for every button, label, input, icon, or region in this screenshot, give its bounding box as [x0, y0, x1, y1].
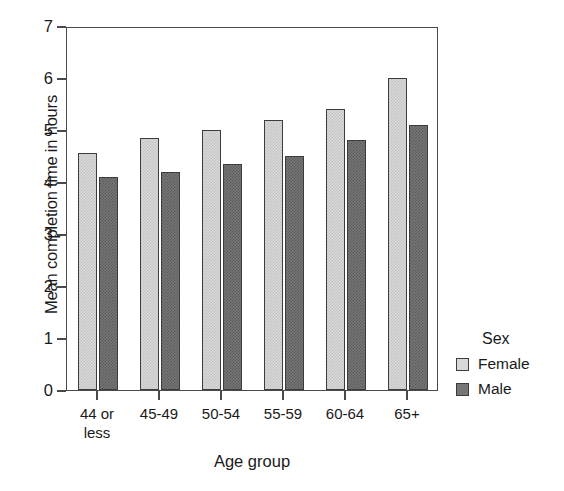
y-tick-label: 2 [44, 276, 53, 296]
x-tick-mark-0 [96, 391, 98, 400]
legend-title: Sex [482, 330, 562, 348]
y-tick-mark [57, 26, 66, 28]
bar-female-0 [78, 153, 97, 390]
bar-chart-figure: Mean completion time in hours 01234567 4… [0, 0, 564, 491]
y-tick-label: 6 [44, 68, 53, 88]
x-tick-mark-5 [406, 391, 408, 400]
y-tick-mark [57, 130, 66, 132]
y-tick-mark [57, 234, 66, 236]
y-tick-mark [57, 78, 66, 80]
bar-female-3 [264, 120, 283, 390]
bar-male-3 [285, 156, 304, 390]
y-tick-label: 1 [44, 328, 53, 348]
legend-label: Female [478, 355, 530, 373]
legend-label: Male [478, 380, 512, 398]
bar-female-4 [326, 109, 345, 390]
x-tick-mark-1 [158, 391, 160, 400]
bar-male-2 [223, 164, 242, 390]
x-tick-mark-3 [282, 391, 284, 400]
y-tick-mark [57, 286, 66, 288]
x-axis-title: Age group [66, 452, 438, 471]
legend: Sex FemaleMale [456, 330, 562, 405]
bar-male-5 [409, 125, 428, 390]
y-tick-mark [57, 182, 66, 184]
legend-item-male[interactable]: Male [456, 380, 562, 398]
bar-female-1 [140, 138, 159, 390]
bar-female-5 [388, 78, 407, 390]
y-tick-label: 0 [44, 380, 53, 400]
bar-male-0 [99, 177, 118, 390]
y-tick-label: 4 [44, 172, 53, 192]
legend-swatch-female-icon [456, 358, 469, 371]
legend-item-female[interactable]: Female [456, 355, 562, 373]
y-axis-title: Mean completion time in hours [42, 50, 61, 360]
x-tick-label-5: 65+ [365, 404, 449, 423]
legend-entries: FemaleMale [456, 355, 562, 398]
x-tick-mark-2 [220, 391, 222, 400]
plot-area [66, 27, 438, 391]
x-tick-mark-4 [344, 391, 346, 400]
legend-swatch-male-icon [456, 383, 469, 396]
y-tick-mark [57, 338, 66, 340]
y-tick-mark [57, 390, 66, 392]
y-tick-label: 3 [44, 224, 53, 244]
bar-female-2 [202, 130, 221, 390]
y-tick-label: 7 [44, 16, 53, 36]
y-tick-label: 5 [44, 120, 53, 140]
bar-male-4 [347, 140, 366, 390]
bar-male-1 [161, 172, 180, 390]
